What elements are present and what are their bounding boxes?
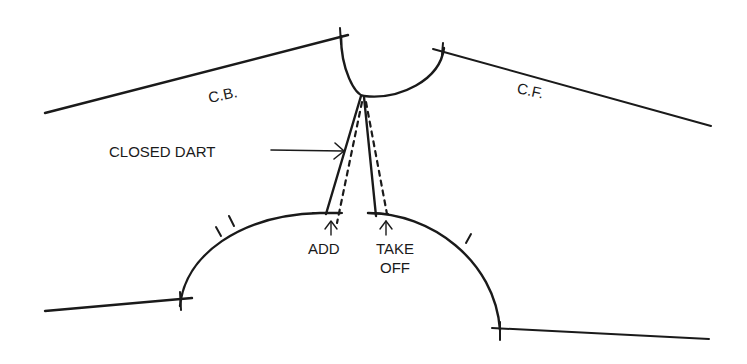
label-take-off: TAKE OFF bbox=[370, 240, 420, 276]
neckline-curve bbox=[341, 36, 444, 97]
label-add: ADD bbox=[308, 240, 340, 257]
back-side-line bbox=[45, 298, 192, 311]
neck-point-mark-front bbox=[442, 43, 443, 55]
pattern-drawing bbox=[0, 0, 747, 364]
label-closed-dart: CLOSED DART bbox=[109, 143, 215, 160]
label-take-off-line1: TAKE bbox=[370, 240, 420, 257]
armhole-curve bbox=[180, 213, 500, 330]
closed-dart-arrow-shaft bbox=[271, 150, 343, 151]
center-back-shoulder-line bbox=[45, 35, 348, 113]
dart-crossbar-right bbox=[368, 213, 388, 214]
front-side-line bbox=[492, 328, 709, 339]
back-underarm-mark bbox=[180, 292, 181, 310]
back-notch-2 bbox=[229, 216, 234, 226]
pattern-diagram: C.B. C.F. CLOSED DART ADD TAKE OFF bbox=[0, 0, 747, 364]
back-notch-1 bbox=[216, 227, 221, 236]
front-notch bbox=[466, 234, 471, 243]
label-take-off-line2: OFF bbox=[370, 259, 420, 276]
dart-leg-left bbox=[326, 96, 361, 214]
center-front-shoulder-line bbox=[433, 49, 711, 126]
dart-leg-right bbox=[364, 97, 376, 216]
